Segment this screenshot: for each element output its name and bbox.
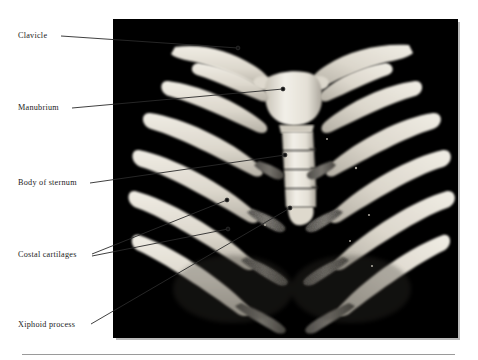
label-xiphoid-process: Xiphoid process bbox=[18, 320, 75, 329]
label-manubrium: Manubrium bbox=[18, 103, 59, 112]
figure-page: Clavicle Manubrium Body of sternum Costa… bbox=[0, 0, 478, 360]
radiograph-photo bbox=[113, 19, 458, 338]
thoracic-cage-illustration bbox=[113, 19, 458, 338]
label-costal-cartilages: Costal cartilages bbox=[18, 250, 77, 259]
label-clavicle: Clavicle bbox=[18, 31, 47, 40]
footer-rule bbox=[22, 354, 455, 355]
label-body-of-sternum: Body of sternum bbox=[18, 178, 77, 187]
